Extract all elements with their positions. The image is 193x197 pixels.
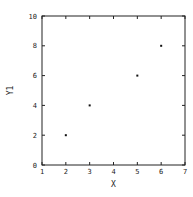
x-tick-label: 5: [135, 168, 139, 176]
y-axis-ticks: 0246810: [29, 13, 185, 170]
data-point: [65, 134, 67, 136]
x-tick-label: 6: [159, 168, 163, 176]
data-points: [65, 45, 162, 136]
plot-frame: [42, 16, 185, 165]
x-tick-label: 7: [183, 168, 187, 176]
plot-border: [42, 16, 185, 165]
y-axis-title: Y1: [6, 86, 15, 96]
x-tick-label: 3: [88, 168, 92, 176]
y-tick-label: 2: [33, 132, 37, 140]
x-tick-label: 4: [111, 168, 115, 176]
x-tick-label: 2: [64, 168, 68, 176]
y-tick-label: 10: [29, 13, 37, 21]
x-tick-label: 1: [40, 168, 44, 176]
x-axis-title: X: [111, 180, 116, 189]
data-point: [136, 75, 138, 77]
x-axis-ticks: 1234567: [40, 16, 187, 176]
scatter-chart: 1234567 0246810 X Y1: [0, 0, 193, 197]
data-point: [160, 45, 162, 47]
y-tick-label: 4: [33, 102, 37, 110]
y-tick-label: 6: [33, 72, 37, 80]
data-point: [89, 104, 91, 106]
y-tick-label: 0: [33, 162, 37, 170]
y-tick-label: 8: [33, 42, 37, 50]
